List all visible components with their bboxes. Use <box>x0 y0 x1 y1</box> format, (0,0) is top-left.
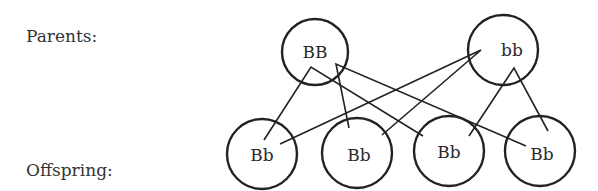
punnett-cross-diagram: BB bb Bb Bb Bb Bb <box>0 0 598 191</box>
offspring-genotype-2: Bb <box>347 145 370 165</box>
parent-genotype-BB: BB <box>303 42 328 62</box>
offspring-genotype-4: Bb <box>530 144 553 164</box>
offspring-genotype-3: Bb <box>437 142 460 162</box>
allele-connection-lines <box>264 50 548 146</box>
offspring-genotype-1: Bb <box>250 145 273 165</box>
line-bb-to-offspring-1-2 <box>280 50 481 144</box>
parent-genotype-bb: bb <box>501 40 523 60</box>
